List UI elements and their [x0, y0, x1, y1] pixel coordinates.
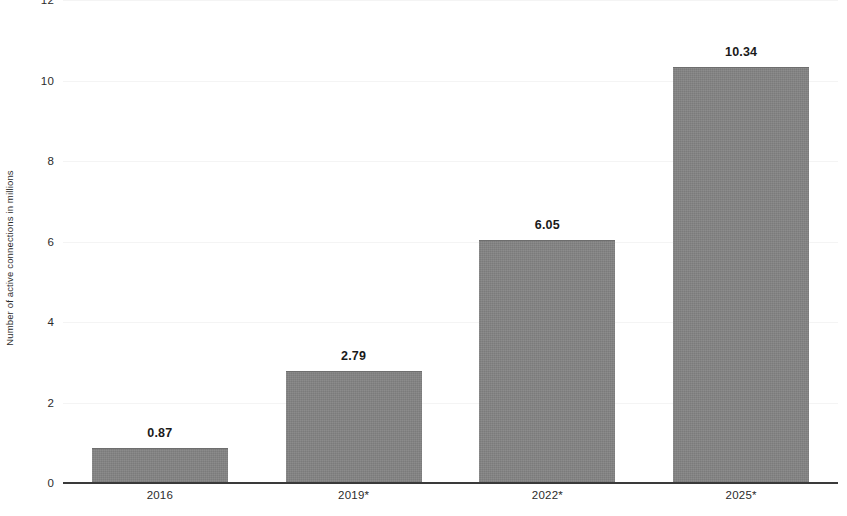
y-axis-tick-labels: 024681012: [20, 0, 54, 484]
bar-group[interactable]: 2.79: [286, 0, 422, 483]
y-tick-label: 10: [28, 75, 54, 87]
y-tick-label: 0: [28, 477, 54, 489]
x-tick-label: 2022*: [479, 489, 615, 501]
bar-value-label: 2.79: [286, 349, 422, 363]
x-tick-label: 2016: [92, 489, 228, 501]
x-axis-line: [63, 482, 838, 484]
bar-value-label: 10.34: [673, 45, 809, 59]
x-tick-label: 2025*: [673, 489, 809, 501]
bar-group[interactable]: 0.87: [92, 0, 228, 483]
bars-layer: 0.872.796.0510.34: [63, 0, 838, 483]
y-tick-label: 2: [28, 397, 54, 409]
bar-group[interactable]: 6.05: [479, 0, 615, 483]
bar-chart: Number of active connections in millions…: [0, 0, 847, 516]
y-tick-label: 4: [28, 316, 54, 328]
y-tick-label: 12: [28, 0, 54, 6]
bar-value-label: 0.87: [92, 426, 228, 440]
y-tick-label: 6: [28, 236, 54, 248]
x-tick-label: 2019*: [286, 489, 422, 501]
bar-group[interactable]: 10.34: [673, 0, 809, 483]
bar[interactable]: [479, 240, 615, 484]
y-axis-title: Number of active connections in millions: [0, 0, 18, 516]
bar[interactable]: [286, 371, 422, 483]
bar-value-label: 6.05: [479, 218, 615, 232]
x-axis-tick-labels: 20162019*2022*2025*: [63, 489, 838, 513]
bar[interactable]: [92, 448, 228, 483]
y-tick-label: 8: [28, 155, 54, 167]
bar[interactable]: [673, 67, 809, 483]
